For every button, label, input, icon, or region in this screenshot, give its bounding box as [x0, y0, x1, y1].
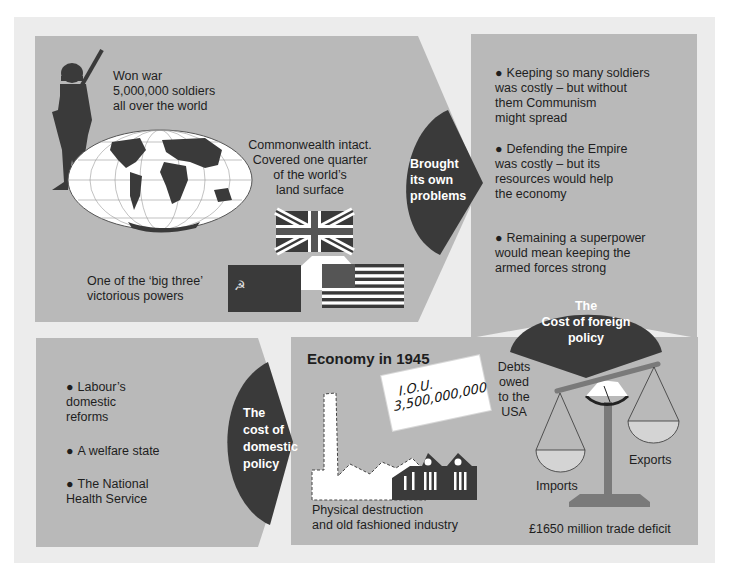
foreign-bullet-2: Defending the Empire was costly – but it…	[495, 142, 690, 202]
trade-deficit-caption: £1650 million trade deficit	[529, 522, 671, 537]
exports-label: Exports	[629, 453, 671, 468]
foreign-bullet-3: Remaining a superpower would mean keepin…	[495, 231, 690, 276]
soldiers-text: Won war 5,000,000 soldiers all over the …	[113, 69, 215, 114]
domestic-bullet-3: The National Health Service	[66, 477, 148, 507]
debts-text: Debts owed to the USA	[489, 360, 539, 420]
svg-text:☭: ☭	[234, 278, 246, 293]
domestic-bullet-1: Labour’s domestic reforms	[66, 380, 126, 425]
usa-flag-icon	[322, 264, 404, 308]
commonwealth-text: Commonwealth intact. Covered one quarter…	[244, 138, 376, 198]
foreign-bullet-1: Keeping so many soldiers was costly – bu…	[495, 66, 690, 126]
industry-caption: Physical destruction and old fashioned i…	[312, 503, 458, 533]
ussr-flag-icon: ☭	[228, 265, 301, 312]
economy-title: Economy in 1945	[307, 350, 430, 368]
imports-label: Imports	[536, 479, 578, 494]
domestic-bullet-2: A welfare state	[66, 444, 160, 459]
badge-brought-problems: Brought its own problems	[410, 156, 466, 204]
uk-flag-icon	[276, 211, 353, 252]
big-three-text: One of the ‘big three’ victorious powers	[87, 274, 203, 304]
badge-foreign-policy: The Cost of foreign policy	[522, 298, 650, 346]
badge-domestic-policy: The cost of domestic policy	[243, 405, 298, 473]
